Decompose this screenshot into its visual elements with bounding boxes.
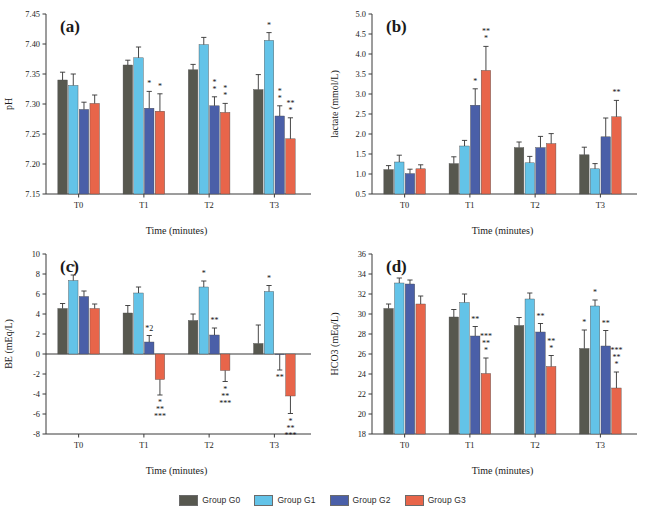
- x-tick-label: T2: [204, 441, 213, 450]
- x-axis-title: Time (minutes): [146, 465, 208, 477]
- legend-entry-g1: Group G1: [254, 495, 315, 506]
- y-tick-label: 7.45: [25, 10, 40, 19]
- bar: [90, 309, 100, 355]
- y-tick-label: -8: [33, 430, 40, 439]
- significance-marker: *: [267, 274, 271, 283]
- x-tick-label: T2: [530, 441, 539, 450]
- y-tick-label: 26: [358, 350, 366, 359]
- bar: [275, 354, 285, 355]
- bar: [481, 374, 491, 435]
- legend-label-g0: Group G0: [202, 495, 240, 505]
- bar: [286, 139, 296, 194]
- x-tick-label: T3: [596, 201, 605, 210]
- significance-marker: *: [278, 87, 282, 96]
- y-tick-label: 28: [358, 330, 366, 339]
- chart-panel-a: 7.157.207.257.307.357.407.45T0T1**T2****…: [0, 0, 319, 240]
- bar: [612, 388, 622, 434]
- bar: [384, 170, 394, 194]
- y-tick-label: 34: [358, 270, 367, 279]
- bar: [134, 58, 144, 194]
- bar: [79, 109, 89, 194]
- panel-label: (d): [386, 257, 407, 276]
- bar: [155, 111, 165, 194]
- y-tick-label: 5.0: [356, 10, 366, 19]
- x-tick-label: T2: [530, 201, 539, 210]
- y-tick-label: 2.5: [356, 110, 366, 119]
- significance-marker: **: [482, 27, 490, 36]
- chart-svg-a: 7.157.207.257.307.357.407.45T0T1**T2****…: [0, 0, 319, 240]
- bar: [123, 313, 133, 354]
- x-tick-label: T3: [270, 441, 279, 450]
- y-tick-label: 1.5: [356, 150, 366, 159]
- y-tick-label: 36: [358, 250, 366, 259]
- legend-label-g1: Group G1: [277, 495, 315, 505]
- panel-label: (c): [60, 257, 79, 276]
- y-tick-label: 30: [358, 310, 366, 319]
- bar: [220, 354, 230, 371]
- y-tick-label: 22: [358, 390, 366, 399]
- bar: [514, 326, 524, 435]
- bar: [601, 137, 611, 194]
- y-tick-label: 3.5: [356, 70, 366, 79]
- legend-swatch-g2: [330, 495, 349, 506]
- y-tick-label: 0: [36, 350, 40, 359]
- y-tick-label: 24: [358, 370, 367, 379]
- bar: [188, 321, 198, 355]
- bar: [188, 70, 198, 194]
- y-tick-label: 0.5: [356, 190, 366, 199]
- chart-panel-b: 0.51.01.52.02.53.03.54.04.55.0T0T1****T2…: [326, 0, 645, 240]
- bar: [536, 332, 546, 434]
- x-axis-title: Time (minutes): [472, 225, 534, 237]
- significance-marker: *: [593, 288, 597, 297]
- y-tick-label: 7.25: [25, 130, 40, 139]
- bar: [590, 306, 600, 434]
- chart-panel-c: -8-6-4-20246810T0*T1*2******T2*********T…: [0, 240, 319, 480]
- significance-marker: *: [202, 269, 206, 278]
- chart-panel-d: 18202224262830323436T0T1********T2*****T…: [326, 240, 645, 480]
- x-tick-label: T0: [74, 201, 83, 210]
- bar: [536, 148, 546, 194]
- y-tick-label: 1.0: [356, 170, 366, 179]
- chart-svg-c: -8-6-4-20246810T0*T1*2******T2*********T…: [0, 240, 319, 480]
- bar: [525, 299, 535, 434]
- significance-marker: **: [612, 88, 620, 97]
- significance-marker: *: [158, 82, 162, 91]
- bar: [155, 354, 165, 380]
- x-tick-label: T3: [270, 201, 279, 210]
- figure-legend: Group G0 Group G1 Group G2 Group G3: [0, 488, 645, 512]
- y-tick-label: 7.35: [25, 70, 40, 79]
- chart-svg-b: 0.51.01.52.02.53.03.54.04.55.0T0T1****T2…: [326, 0, 645, 240]
- bar: [470, 105, 480, 194]
- bar: [69, 85, 79, 194]
- figure-container: 7.157.207.257.307.357.407.45T0T1**T2****…: [0, 0, 645, 517]
- significance-marker: ***: [219, 399, 231, 408]
- significance-marker: *: [582, 318, 586, 327]
- bar: [90, 103, 100, 194]
- significance-marker: **: [276, 373, 284, 382]
- bar: [275, 116, 285, 194]
- bar: [384, 309, 394, 435]
- legend-entry-g3: Group G3: [405, 495, 466, 506]
- legend-entry-g2: Group G2: [330, 495, 391, 506]
- y-tick-label: 2: [36, 330, 40, 339]
- bar: [449, 317, 459, 434]
- bar: [144, 108, 154, 194]
- y-tick-label: 7.15: [25, 190, 40, 199]
- x-tick-label: T0: [400, 441, 409, 450]
- significance-marker: *: [223, 84, 227, 93]
- x-tick-label: T1: [465, 201, 474, 210]
- y-tick-label: 10: [32, 250, 40, 259]
- legend-label-g3: Group G3: [428, 495, 466, 505]
- bar: [79, 297, 89, 355]
- bar: [460, 303, 470, 435]
- bar: [514, 148, 524, 194]
- y-tick-label: -6: [33, 410, 40, 419]
- significance-marker: ***: [284, 431, 296, 440]
- significance-marker: **: [536, 312, 544, 321]
- significance-marker: *: [212, 78, 216, 87]
- x-axis-title: Time (minutes): [472, 465, 534, 477]
- y-tick-label: 20: [358, 410, 366, 419]
- bar: [449, 164, 459, 194]
- bar: [264, 292, 274, 355]
- y-tick-label: 4: [36, 310, 41, 319]
